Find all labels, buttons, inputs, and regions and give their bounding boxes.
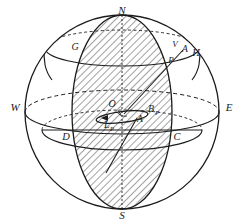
label-center-o: O xyxy=(108,98,115,109)
label-west: W xyxy=(10,101,20,113)
label-point-a-top: A xyxy=(181,44,188,54)
label-angle-bp-sub: P xyxy=(154,109,159,116)
label-angle-lp-sub: P xyxy=(109,125,114,132)
label-point-d: D xyxy=(61,131,70,142)
label-point-p: P xyxy=(167,55,174,65)
label-angle-lp-main: L xyxy=(103,119,110,130)
sphere-diagram-svg: N S E W G V A H P O A B P L P D C xyxy=(0,0,244,224)
label-north: N xyxy=(117,4,126,16)
label-point-a-center: A xyxy=(136,114,143,124)
label-south: S xyxy=(119,209,125,221)
label-angle-bp-main: B xyxy=(148,103,154,114)
label-east: E xyxy=(225,101,233,113)
label-point-c: C xyxy=(173,131,181,142)
label-point-g: G xyxy=(71,41,78,52)
celestial-sphere-figure: N S E W G V A H P O A B P L P D C xyxy=(0,0,244,224)
label-point-h: H xyxy=(191,47,201,58)
